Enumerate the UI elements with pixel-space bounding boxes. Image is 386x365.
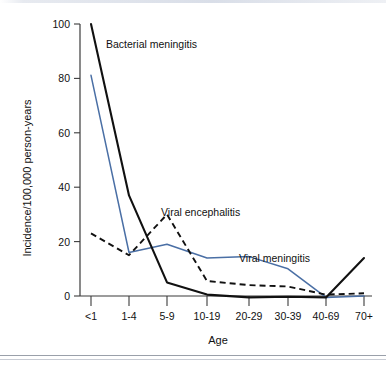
x-tick-label-0: <1 [85,310,97,322]
y-axis-ticks: 100 80 60 40 20 0 [52,18,80,302]
scan-edge-bottom [0,355,386,365]
y-tick-label-0: 0 [64,290,70,302]
x-tick-label-3: 10-19 [194,310,221,322]
series-label-viral-meningitis: Viral meningitis [239,252,310,264]
incidence-by-age-line-chart: Incidence/100,000 person-years 100 80 60… [0,0,386,365]
series-label-bacterial-meningitis: Bacterial meningitis [106,38,197,50]
x-tick-label-6: 40-69 [313,310,340,322]
series-line-bacterial-meningitis [91,24,364,297]
y-tick-label-20: 20 [58,236,70,248]
y-axis-title: Incidence/100,000 person-years [21,99,33,257]
y-tick-label-40: 40 [58,181,70,193]
x-axis-ticks: <1 1-4 5-9 10-19 20-29 30-39 40-69 70+ [85,296,373,322]
x-tick-label-1: 1-4 [121,310,136,322]
series-line-viral-encephalitis [91,214,364,294]
x-tick-label-5: 30-39 [275,310,302,322]
series-label-viral-encephalitis: Viral encephalitis [161,206,240,218]
figure-container: Incidence/100,000 person-years 100 80 60… [0,0,386,365]
x-tick-label-7: 70+ [355,310,373,322]
y-tick-label-100: 100 [52,18,70,30]
series-line-viral-meningitis [91,75,364,297]
x-tick-label-4: 20-29 [236,310,263,322]
y-tick-label-80: 80 [58,72,70,84]
x-axis-title: Age [208,334,228,346]
y-tick-label-60: 60 [58,127,70,139]
x-tick-label-2: 5-9 [159,310,174,322]
